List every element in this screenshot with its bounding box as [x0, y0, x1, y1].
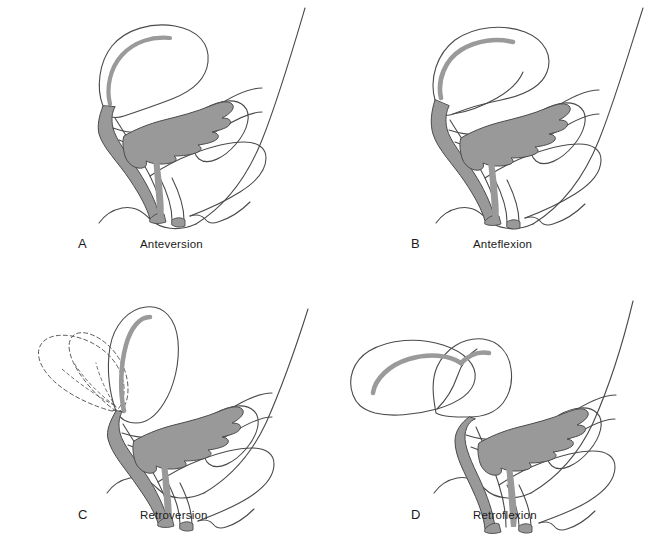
anal-outlet	[519, 524, 532, 533]
retroversion-illustration	[0, 271, 333, 542]
panel-caption-anteflexion: Anteflexion	[473, 238, 532, 250]
panel-anteversion: A Anteversion	[0, 0, 333, 271]
panel-anteflexion: B Anteflexion	[333, 0, 666, 271]
rectal-content-mass	[133, 407, 243, 473]
pelvic-floor-notch	[539, 511, 595, 530]
rectal-content-mass	[460, 104, 570, 170]
uterus-body-outline-upper	[433, 339, 511, 417]
anteflexion-fold	[453, 72, 523, 114]
anal-outlet	[172, 218, 185, 227]
sacrum-outline	[531, 301, 633, 493]
panel-letter-c: C	[78, 507, 88, 522]
panel-letter-d: D	[411, 507, 421, 522]
endometrial-cavity-line	[440, 40, 513, 98]
panel-letter-a: A	[78, 236, 87, 251]
retroflexion-illustration	[333, 271, 666, 542]
outlet-line-2	[172, 178, 184, 220]
panel-letter-b: B	[411, 236, 420, 251]
anal-outlet	[507, 220, 520, 229]
panel-retroflexion: D Retroflexion	[333, 271, 666, 542]
sacrum-outline	[204, 309, 308, 493]
anteversion-illustration	[0, 0, 333, 271]
endometrial-cavity-line	[121, 317, 150, 411]
panel-caption-anteversion: Anteversion	[140, 238, 203, 250]
anal-outlet	[180, 522, 193, 531]
endometrial-cavity-line	[373, 356, 461, 393]
endometrial-cavity-line	[109, 38, 171, 104]
panel-caption-retroversion: Retroversion	[140, 509, 208, 521]
endometrial-cavity-line-upper	[461, 352, 489, 363]
panel-caption-retroflexion: Retroflexion	[473, 509, 537, 521]
panel-retroversion: C Retroversion	[0, 271, 333, 542]
outlet-line-2	[507, 180, 519, 222]
uterus-body-outline	[108, 307, 178, 423]
dashed-axis-2	[62, 369, 114, 405]
uterine-position-figure: A Anteversion	[0, 0, 666, 542]
anteflexion-illustration	[333, 0, 666, 271]
rectal-content-mass	[123, 102, 233, 168]
